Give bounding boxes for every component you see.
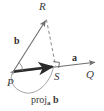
projection-label-text: proj [31, 94, 47, 105]
vector-label-a: a [72, 53, 77, 63]
vector-b-line [13, 21, 46, 73]
vector-label-b: b [14, 36, 20, 46]
projection-label: proja b [31, 95, 59, 107]
perpendicular-dashed-line [46, 20, 55, 66]
vector-projection-figure: R P S Q b a proja b [0, 0, 104, 111]
projection-segment [13, 67, 52, 72]
projection-label-subscript: a [47, 99, 51, 107]
point-label-P: P [7, 77, 14, 88]
point-label-R: R [39, 1, 46, 12]
projection-label-operand: b [53, 94, 59, 105]
point-label-Q: Q [86, 69, 94, 80]
point-label-S: S [54, 71, 60, 82]
